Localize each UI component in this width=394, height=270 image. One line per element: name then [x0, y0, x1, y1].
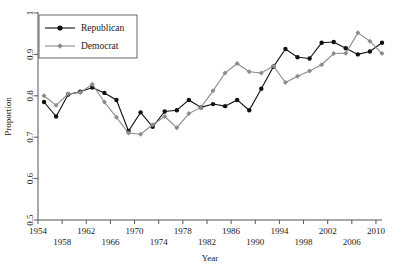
- data-point: [211, 102, 215, 106]
- data-point: [332, 40, 336, 44]
- y-tick-label: 0.6: [25, 172, 35, 184]
- x-tick-label: 1994: [270, 226, 289, 236]
- y-tick-label: 0.9: [25, 48, 35, 60]
- y-tick-label: 0.8: [25, 90, 35, 102]
- x-tick-label: 1974: [150, 237, 169, 247]
- legend-box: [39, 15, 137, 58]
- x-tick-label: 1978: [174, 226, 193, 236]
- data-point: [235, 98, 239, 102]
- data-point: [259, 71, 264, 76]
- data-point: [247, 108, 251, 112]
- data-point: [283, 47, 287, 51]
- data-point: [102, 91, 106, 95]
- x-tick-label: 1966: [101, 237, 120, 247]
- x-tick-label: 1986: [222, 226, 241, 236]
- data-point: [295, 55, 299, 59]
- x-tick-label: 2002: [319, 226, 337, 236]
- x-tick-label: 1962: [77, 226, 95, 236]
- legend-label-republican: Republican: [81, 23, 125, 33]
- x-tick-label: 2006: [343, 237, 362, 247]
- data-point: [319, 41, 323, 45]
- x-tick-label: 1982: [198, 237, 216, 247]
- data-point: [380, 41, 384, 45]
- x-tick-label: 1990: [246, 237, 265, 247]
- data-point: [307, 68, 312, 73]
- data-point: [187, 98, 191, 102]
- y-tick-label: 0.7: [25, 131, 35, 143]
- data-point: [114, 98, 118, 102]
- data-point: [138, 110, 142, 114]
- data-point: [42, 100, 46, 104]
- data-point: [368, 49, 372, 53]
- data-point: [356, 52, 360, 56]
- y-tick-label: 0.5: [25, 214, 35, 226]
- legend: RepublicanDemocrat: [39, 15, 137, 58]
- legend-marker: [57, 25, 62, 30]
- data-point: [307, 56, 311, 60]
- legend-label-democrat: Democrat: [81, 41, 119, 51]
- y-tick-label: 1: [25, 11, 35, 16]
- data-point: [163, 109, 167, 113]
- data-point: [175, 108, 179, 112]
- data-point: [54, 114, 58, 118]
- data-point: [343, 51, 348, 56]
- data-point: [223, 104, 227, 108]
- x-tick-label: 1998: [295, 237, 314, 247]
- x-tick-label: 1954: [29, 226, 48, 236]
- chart-container: 0.50.60.70.80.91Proportion19541958196219…: [0, 0, 394, 270]
- line-chart: 0.50.60.70.80.91Proportion19541958196219…: [0, 0, 394, 270]
- x-tick-label: 1958: [53, 237, 72, 247]
- y-axis-title: Proportion: [3, 97, 13, 136]
- x-axis-title: Year: [202, 253, 219, 263]
- x-tick-label: 1970: [126, 226, 145, 236]
- data-point: [295, 74, 300, 79]
- data-point: [259, 87, 263, 91]
- x-tick-label: 2010: [367, 226, 386, 236]
